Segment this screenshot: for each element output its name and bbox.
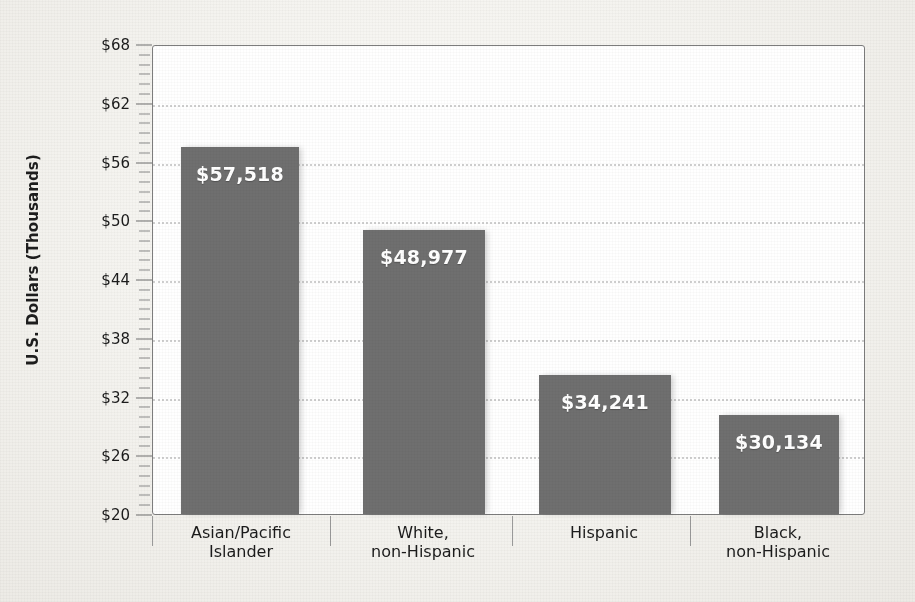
x-axis-category-label-line: White, [323, 524, 523, 543]
x-axis-category-label-line: Asian/Pacific [141, 524, 341, 543]
y-axis-minor-tick [139, 387, 150, 388]
y-axis-tick-labels: $68$62$56$50$44$38$32$26$20 [68, 45, 130, 515]
y-axis-minor-tick [139, 417, 150, 418]
y-axis-minor-tick [139, 64, 150, 65]
y-axis-minor-tick [139, 426, 150, 427]
y-axis-tick-marks [136, 45, 152, 515]
x-axis-category-label: Asian/PacificIslander [141, 524, 341, 562]
y-axis-minor-tick [139, 152, 150, 153]
y-axis-tick-label: $56 [68, 154, 130, 172]
y-axis-minor-tick [139, 495, 150, 496]
y-axis-tick-label: $32 [68, 389, 130, 407]
y-axis-minor-tick [139, 407, 150, 408]
x-axis-category-label-line: Black, [678, 524, 878, 543]
y-axis-minor-tick [139, 240, 150, 241]
y-axis-major-tick [136, 397, 152, 398]
y-axis-tick-label: $38 [68, 330, 130, 348]
y-axis-minor-tick [139, 289, 150, 290]
y-axis-minor-tick [139, 319, 150, 320]
y-axis-minor-tick [139, 201, 150, 202]
y-axis-minor-tick [139, 358, 150, 359]
y-axis-minor-tick [139, 133, 150, 134]
y-axis-minor-tick [139, 54, 150, 55]
x-axis-category-label-line: Islander [141, 543, 341, 562]
y-axis-minor-tick [139, 446, 150, 447]
bar: $34,241 [539, 375, 671, 514]
gridline [153, 105, 864, 107]
bar-value-label: $57,518 [181, 163, 299, 185]
y-axis-minor-tick [139, 270, 150, 271]
y-axis-minor-tick [139, 466, 150, 467]
bar: $48,977 [363, 230, 485, 514]
x-axis-category-label-line: Hispanic [504, 524, 704, 543]
y-axis-title-label: U.S. Dollars (Thousands) [24, 154, 42, 366]
y-axis-major-tick [136, 221, 152, 222]
y-axis-major-tick [136, 45, 152, 46]
y-axis-minor-tick [139, 309, 150, 310]
y-axis-minor-tick [139, 485, 150, 486]
x-axis-category-label-line: non-Hispanic [678, 543, 878, 562]
y-axis-minor-tick [139, 377, 150, 378]
plot-area: $57,518$48,977$34,241$30,134 [152, 45, 865, 515]
bar: $30,134 [719, 415, 839, 514]
x-axis-category-label: Hispanic [504, 524, 704, 543]
y-axis-minor-tick [139, 436, 150, 437]
y-axis-major-tick [136, 515, 152, 516]
y-axis-minor-tick [139, 142, 150, 143]
y-axis-minor-tick [139, 113, 150, 114]
y-axis-minor-tick [139, 368, 150, 369]
x-axis-category-label: Black,non-Hispanic [678, 524, 878, 562]
y-axis-major-tick [136, 338, 152, 339]
y-axis-minor-tick [139, 74, 150, 75]
y-axis-tick-label: $26 [68, 447, 130, 465]
y-axis-minor-tick [139, 328, 150, 329]
bar-chart: U.S. Dollars (Thousands) $68$62$56$50$44… [0, 0, 915, 602]
bar-value-label: $34,241 [539, 391, 671, 413]
y-axis-minor-tick [139, 84, 150, 85]
y-axis-minor-tick [139, 211, 150, 212]
y-axis-title: U.S. Dollars (Thousands) [10, 0, 56, 520]
y-axis-minor-tick [139, 475, 150, 476]
y-axis-tick-label: $50 [68, 212, 130, 230]
y-axis-minor-tick [139, 299, 150, 300]
y-axis-minor-tick [139, 172, 150, 173]
y-axis-tick-label: $44 [68, 271, 130, 289]
y-axis-minor-tick [139, 93, 150, 94]
y-axis-tick-label: $20 [68, 506, 130, 524]
bar-value-label: $48,977 [363, 246, 485, 268]
x-axis-category-label-line: non-Hispanic [323, 543, 523, 562]
y-axis-minor-tick [139, 191, 150, 192]
bar-value-label: $30,134 [719, 431, 839, 453]
y-axis-major-tick [136, 162, 152, 163]
y-axis-major-tick [136, 280, 152, 281]
y-axis-tick-label: $68 [68, 36, 130, 54]
y-axis-minor-tick [139, 250, 150, 251]
y-axis-minor-tick [139, 260, 150, 261]
y-axis-minor-tick [139, 182, 150, 183]
y-axis-tick-label: $62 [68, 95, 130, 113]
y-axis-major-tick [136, 456, 152, 457]
y-axis-minor-tick [139, 123, 150, 124]
y-axis-minor-tick [139, 505, 150, 506]
bar: $57,518 [181, 147, 299, 514]
x-axis-category-label: White,non-Hispanic [323, 524, 523, 562]
y-axis-minor-tick [139, 231, 150, 232]
y-axis-minor-tick [139, 348, 150, 349]
y-axis-major-tick [136, 103, 152, 104]
